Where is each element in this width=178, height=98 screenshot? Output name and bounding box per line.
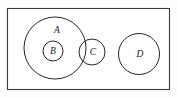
set-label-b: B	[50, 46, 56, 56]
set-label-d: D	[136, 49, 144, 59]
universal-set-rectangle	[8, 9, 170, 90]
set-label-c: C	[90, 47, 97, 57]
set-label-a: A	[53, 25, 60, 35]
set-diagram-figure: A B C D	[0, 0, 178, 98]
set-diagram-canvas: A B C D	[0, 0, 178, 98]
